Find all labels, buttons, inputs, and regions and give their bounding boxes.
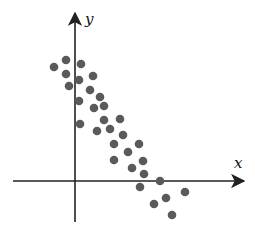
data-point: [181, 188, 190, 197]
data-point: [116, 115, 125, 124]
data-point: [124, 148, 133, 157]
data-point: [140, 170, 149, 179]
data-point: [75, 97, 84, 106]
scatter-plot: x y: [0, 0, 255, 226]
data-point: [100, 102, 109, 111]
data-point: [93, 127, 102, 136]
x-axis-label: x: [234, 154, 243, 172]
data-point: [62, 56, 71, 65]
data-point: [100, 116, 109, 125]
data-point: [106, 125, 115, 134]
data-point: [139, 157, 148, 166]
data-points: [50, 56, 190, 220]
data-point: [168, 211, 177, 220]
data-point: [75, 76, 84, 85]
data-point: [119, 131, 128, 140]
y-axis-label: y: [84, 10, 94, 28]
data-point: [162, 194, 171, 203]
data-point: [76, 120, 85, 129]
data-point: [110, 140, 119, 149]
data-point: [96, 93, 105, 102]
data-point: [135, 140, 144, 149]
data-point: [156, 177, 165, 186]
data-point: [50, 63, 59, 72]
data-point: [150, 200, 159, 209]
data-point: [62, 70, 71, 79]
data-point: [86, 86, 95, 95]
data-point: [89, 72, 98, 81]
data-point: [90, 104, 99, 113]
data-point: [128, 164, 137, 173]
data-point: [77, 60, 86, 69]
data-point: [65, 82, 74, 91]
data-point: [110, 156, 119, 165]
data-point: [136, 183, 145, 192]
